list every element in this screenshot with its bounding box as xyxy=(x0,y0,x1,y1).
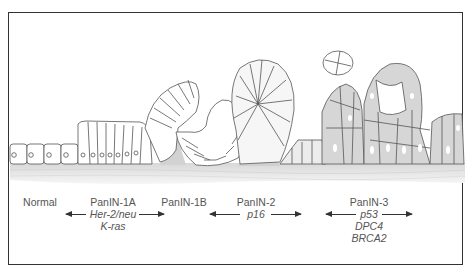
stage-label-panin-1b: PanIN-1B xyxy=(161,196,207,208)
panin-3-epithelium xyxy=(322,63,464,164)
stage-label-normal: Normal xyxy=(23,196,57,208)
arrow-left-her2 xyxy=(66,214,86,215)
gene-label-p16: p16 xyxy=(247,208,265,220)
stage-label-panin-1a: PanIN-1A xyxy=(90,196,136,208)
arrow-left-p16 xyxy=(210,214,240,215)
panin-2-epithelium xyxy=(232,60,326,164)
epithelium-illustration xyxy=(0,0,472,275)
stage-label-panin-2: PanIN-2 xyxy=(237,196,276,208)
arrow-right-p53 xyxy=(382,214,412,215)
stage-label-panin-3: PanIN-3 xyxy=(350,196,389,208)
gene-label-dpc4: DPC4 xyxy=(355,220,383,232)
normal-epithelium xyxy=(10,144,78,164)
arrow-left-p53 xyxy=(326,214,356,215)
detached-cell-cluster xyxy=(323,51,353,75)
arrow-right-her2 xyxy=(139,214,164,215)
gene-label-brca2: BRCA2 xyxy=(351,232,386,244)
gene-label-her2-neu: Her-2/neu xyxy=(90,208,137,220)
gene-label-k-ras: K-ras xyxy=(100,220,125,232)
gene-label-p53: p53 xyxy=(360,208,378,220)
panin-1b-epithelium xyxy=(145,80,246,166)
panin-1a-epithelium xyxy=(78,121,152,164)
arrow-right-p16 xyxy=(271,214,301,215)
